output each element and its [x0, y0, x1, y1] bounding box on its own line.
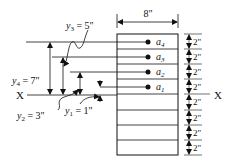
svg-text:2": 2": [193, 67, 202, 77]
beam-section-diagram: 8" a4 a3 a2 a1 X X: [0, 0, 233, 167]
svg-text:a1: a1: [156, 81, 165, 94]
y4-label: y4 = 7": [11, 75, 40, 88]
svg-text:2": 2": [193, 113, 202, 123]
neutral-axis: X X: [16, 89, 222, 101]
y3-label: y3 = 5": [65, 20, 94, 33]
axis-label-right: X: [214, 89, 222, 101]
beam-cross-section: [117, 34, 178, 155]
spacing-dimension-column: 2" 2" 2" 2" 2" 2" 2" 2": [184, 34, 210, 155]
svg-text:2": 2": [193, 97, 202, 107]
width-dimension: 8": [117, 8, 178, 28]
layer-a1: a1: [100, 81, 165, 94]
y2-label: y2 = 3": [16, 110, 45, 123]
layer-a3: a3: [117, 51, 165, 64]
rebar-dot-icon: [146, 70, 151, 75]
y1-leader: [80, 97, 99, 104]
width-label: 8": [143, 8, 152, 19]
svg-text:2": 2": [193, 82, 202, 92]
layer-a2: a2: [117, 66, 165, 79]
rebar-dot-icon: [146, 40, 151, 45]
rebar-dot-icon: [146, 55, 151, 60]
axis-label-left: X: [16, 89, 24, 101]
svg-text:a3: a3: [156, 51, 165, 64]
layer-a4: a4: [117, 36, 165, 49]
y3-leader: [64, 30, 88, 66]
svg-text:2": 2": [193, 128, 202, 138]
svg-text:2": 2": [193, 143, 202, 153]
svg-text:2": 2": [193, 37, 202, 47]
svg-text:a4: a4: [156, 36, 165, 49]
rebar-dot-icon: [146, 85, 151, 90]
y1-label: y1 = 1": [64, 105, 93, 118]
svg-text:2": 2": [193, 52, 202, 62]
svg-text:a2: a2: [156, 66, 165, 79]
